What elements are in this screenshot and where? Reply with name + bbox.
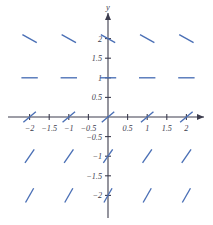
slope-segment (65, 188, 73, 202)
y-tick-label: 0.5 (92, 93, 102, 102)
x-tick-label: 1.5 (162, 124, 172, 133)
slope-segment (143, 149, 152, 163)
slope-field-figure: −2−1.5−1−0.50.511.5221.510.5−0.5−1−1.5−2… (0, 0, 213, 225)
slope-segment (26, 188, 34, 202)
y-tick-label: 1.5 (92, 54, 102, 63)
x-axis-arrowhead (197, 114, 204, 120)
y-axis-arrowhead (105, 13, 111, 20)
axes-group (8, 13, 204, 218)
y-axis-label: y (105, 2, 110, 12)
slope-segment (179, 35, 193, 43)
y-tick-label: −2 (92, 191, 102, 200)
slope-segment (22, 35, 36, 43)
x-tick-label: 0.5 (122, 124, 132, 133)
slope-segment (140, 35, 154, 43)
x-tick-label: 2 (184, 124, 188, 133)
x-tick-label: −0.5 (81, 124, 97, 133)
y-tick-label: −0.5 (86, 133, 102, 142)
slope-segment (143, 188, 151, 202)
x-tick-label: −1 (64, 124, 74, 133)
x-tick-label: 1 (145, 124, 149, 133)
slope-segment (182, 149, 191, 163)
y-tick-label: −1 (92, 152, 102, 161)
slope-segment (62, 35, 76, 43)
y-tick-label: −1.5 (86, 172, 102, 181)
x-tick-label: −2 (25, 124, 35, 133)
slope-segment (25, 149, 34, 163)
slope-segment (182, 188, 190, 202)
x-tick-label: −1.5 (41, 124, 57, 133)
slope-field-plot: −2−1.5−1−0.50.511.5221.510.5−0.5−1−1.5−2… (0, 0, 213, 225)
slope-segment (64, 149, 73, 163)
y-tick-label: 2 (98, 35, 102, 44)
